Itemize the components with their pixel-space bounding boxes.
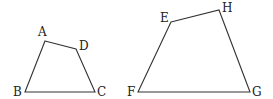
vertex-label-d: D: [79, 39, 89, 53]
vertex-label-e: E: [160, 11, 169, 25]
vertex-label-c: C: [97, 85, 106, 99]
vertex-label-a: A: [37, 25, 47, 39]
figure-canvas: A D C B E H G F: [0, 0, 273, 99]
vertex-label-g: G: [252, 85, 262, 99]
vertex-label-f: F: [127, 85, 135, 99]
quadrilateral-efgh: [138, 10, 250, 92]
vertex-label-b: B: [13, 85, 22, 99]
similar-quadrilaterals-figure: A D C B E H G F: [0, 0, 273, 99]
vertex-label-h: H: [222, 1, 232, 15]
